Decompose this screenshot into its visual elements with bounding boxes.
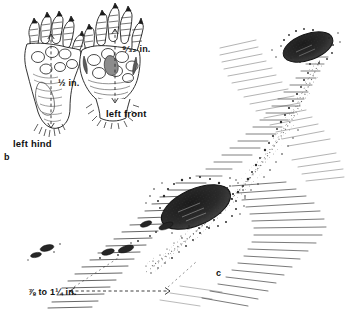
- panel-label-b: b: [4, 152, 10, 162]
- panel-label-c: c: [216, 268, 221, 278]
- label-left-front: left front: [106, 108, 147, 119]
- measurement-left-front: ⁹⁄₃₂ in.: [122, 44, 151, 54]
- label-left-hind: left hind: [13, 138, 52, 149]
- illustration-canvas: [0, 0, 347, 315]
- measurement-left-hind: ½ in.: [58, 78, 80, 88]
- measurement-trail-width: ⅞ to 1¼ in.: [28, 287, 77, 297]
